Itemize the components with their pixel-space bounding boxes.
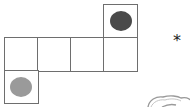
cloud-outline-icon: [0, 0, 190, 107]
